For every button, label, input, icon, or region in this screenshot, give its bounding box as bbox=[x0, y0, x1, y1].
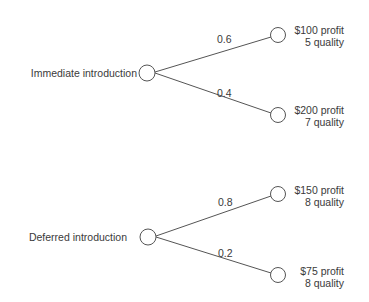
chance-node-root bbox=[140, 229, 156, 245]
outcome-node bbox=[271, 268, 286, 283]
outcome-node bbox=[271, 187, 286, 202]
profit-value: $75 profit bbox=[292, 265, 344, 277]
quality-value: 8 quality bbox=[292, 196, 344, 208]
outcome-label: $100 profit 5 quality bbox=[292, 24, 344, 48]
profit-value: $200 profit bbox=[292, 104, 344, 116]
outcome-label: $75 profit 8 quality bbox=[292, 265, 344, 289]
quality-value: 7 quality bbox=[292, 116, 344, 128]
quality-value: 8 quality bbox=[292, 277, 344, 289]
outcome-label: $150 profit 8 quality bbox=[292, 184, 344, 208]
probability-label: 0.2 bbox=[218, 247, 233, 259]
profit-value: $150 profit bbox=[292, 184, 344, 196]
probability-label: 0.6 bbox=[217, 33, 232, 45]
outcome-label: $200 profit 7 quality bbox=[292, 104, 344, 128]
outcome-node bbox=[271, 28, 286, 43]
branch-edge bbox=[155, 73, 271, 113]
branch-edge bbox=[156, 237, 271, 273]
tree-immediate bbox=[139, 28, 286, 123]
probability-label: 0.8 bbox=[218, 196, 233, 208]
quality-value: 5 quality bbox=[292, 36, 344, 48]
root-label-immediate: Immediate introduction bbox=[31, 67, 137, 79]
profit-value: $100 profit bbox=[292, 24, 344, 36]
branch-edge bbox=[155, 37, 271, 72]
root-label-deferred: Deferred introduction bbox=[29, 231, 127, 243]
outcome-node bbox=[271, 108, 286, 123]
chance-node-root bbox=[139, 65, 155, 81]
probability-label: 0.4 bbox=[217, 87, 232, 99]
tree-deferred bbox=[140, 187, 286, 283]
branch-edge bbox=[156, 196, 271, 236]
